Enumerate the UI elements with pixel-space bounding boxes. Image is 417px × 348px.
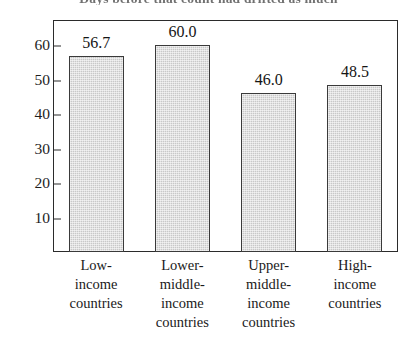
x-axis-category-line: middle- (221, 275, 317, 294)
bar-value-label: 48.5 (315, 64, 395, 80)
x-axis-category-label: Low-incomecountries (48, 256, 144, 313)
y-tick-label: 20 (24, 175, 50, 191)
x-axis-category-label: Lower-middle-incomecountries (134, 256, 230, 331)
x-axis-category-line: income (134, 294, 230, 313)
x-axis-category-line: middle- (134, 275, 230, 294)
y-tick-label: 10 (24, 210, 50, 226)
y-tick-label: 40 (24, 106, 50, 122)
bar (155, 45, 210, 252)
bar (327, 85, 382, 252)
bar (241, 93, 296, 252)
bar (69, 56, 124, 252)
x-axis-category-line: Low- (48, 256, 144, 275)
x-axis-category-line: Upper- (221, 256, 317, 275)
y-tick-mark (54, 149, 61, 150)
y-tick-label: 60 (24, 37, 50, 53)
x-axis-category-line: Lower- (134, 256, 230, 275)
y-tick-mark (54, 218, 61, 219)
y-tick-label: 50 (24, 72, 50, 88)
y-axis: 102030405060 (18, 0, 50, 348)
y-tick-mark (54, 80, 61, 81)
y-tick-mark (54, 115, 61, 116)
x-axis-category-line: income (307, 275, 403, 294)
bar-value-label: 60.0 (142, 24, 222, 40)
x-axis-category-line: countries (134, 313, 230, 332)
x-axis-category-label: Upper-middle-incomecountries (221, 256, 317, 331)
x-axis-category-line: countries (221, 313, 317, 332)
x-axis-category-label: High-incomecountries (307, 256, 403, 313)
y-tick-label: 30 (24, 141, 50, 157)
x-axis-category-line: countries (307, 294, 403, 313)
x-axis-category-line: income (48, 275, 144, 294)
x-axis-category-line: countries (48, 294, 144, 313)
x-axis-category-line: High- (307, 256, 403, 275)
bar-value-label: 46.0 (229, 72, 309, 88)
x-axis-category-line: income (221, 294, 317, 313)
bar-value-label: 56.7 (56, 35, 136, 51)
bar-chart: 102030405060 56.7Low-incomecountries60.0… (0, 0, 417, 348)
y-tick-mark (54, 184, 61, 185)
